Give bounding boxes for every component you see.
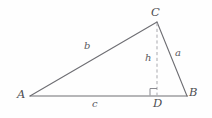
- altitude-label-h: h: [145, 53, 151, 63]
- triangle-diagram: A B C D b a c h: [0, 0, 212, 118]
- vertex-label-b: B: [189, 87, 197, 99]
- right-angle-marker: [150, 89, 157, 96]
- side-label-c: c: [92, 99, 98, 109]
- side-b-line: [30, 22, 157, 96]
- side-label-a: a: [175, 48, 181, 58]
- vertex-label-c: C: [151, 7, 160, 19]
- vertex-label-a: A: [17, 89, 25, 101]
- side-a-line: [157, 22, 187, 96]
- side-label-b: b: [84, 41, 90, 51]
- vertex-label-d: D: [153, 98, 162, 110]
- triangle-svg: [0, 0, 212, 118]
